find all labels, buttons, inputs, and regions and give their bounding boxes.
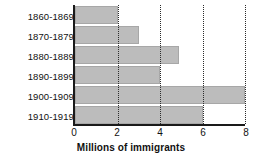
y-tick-label: 1880-1889 — [28, 52, 74, 62]
y-tick-label: 1860-1869 — [28, 12, 74, 22]
x-tick-label: 2 — [114, 128, 120, 138]
x-tick-label: 0 — [71, 128, 77, 138]
y-tick-label: 1910-1919 — [28, 112, 74, 122]
bar-1860-1869 — [75, 6, 118, 24]
bar-1910-1919 — [75, 106, 203, 124]
y-tick-label: 1900-1909 — [28, 92, 74, 102]
x-tick-label: 8 — [243, 128, 249, 138]
gridline-6 — [203, 5, 204, 124]
y-tick-label: 1870-1879 — [28, 32, 74, 42]
x-tick-label: 4 — [157, 128, 163, 138]
bar-1870-1879 — [75, 26, 139, 44]
x-axis-title: Millions of immigrants — [0, 143, 262, 153]
y-tick-label: 1890-1899 — [28, 72, 74, 82]
gridline-4 — [160, 5, 161, 124]
gridline-8 — [245, 5, 246, 124]
bar-1880-1889 — [75, 46, 179, 64]
plot-area — [73, 5, 245, 126]
x-tick-label: 6 — [200, 128, 206, 138]
bar-chart-figure: 1860-1869 1870-1879 1880-1889 1890-1899 … — [0, 0, 262, 159]
gridline-2 — [118, 5, 119, 124]
